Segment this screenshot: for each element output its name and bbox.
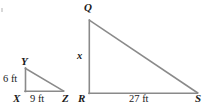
vertex-label-Y: Y: [21, 56, 28, 67]
geometry-diagram-canvas: Q Y X Z R S x 6 ft 9 ft 27 ft: [0, 0, 209, 111]
segment-QS: [90, 20, 198, 92]
measure-label-6ft: 6 ft: [3, 73, 17, 84]
vertex-label-S: S: [195, 93, 201, 104]
segment-YZ: [26, 68, 64, 91]
large-triangle-QRS: [89, 20, 198, 93]
measure-label-9ft: 9 ft: [30, 93, 44, 104]
measure-label-x: x: [77, 50, 82, 61]
vertex-label-Z: Z: [62, 93, 69, 104]
vertex-label-Q: Q: [84, 2, 92, 13]
vertex-label-X: X: [13, 93, 20, 104]
measure-label-27ft: 27 ft: [129, 93, 149, 104]
vertex-label-R: R: [78, 93, 85, 104]
small-triangle-XYZ: [25, 68, 64, 92]
